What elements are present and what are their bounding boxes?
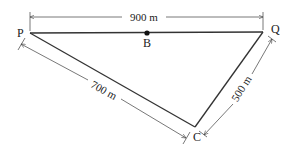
point-b-dot [144,30,149,35]
dim-qc-label: 500 m [229,73,254,103]
point-p-label: P [17,26,24,40]
dim-pc-arrow-c [121,99,186,138]
dim-pq-label: 900 m [130,11,158,23]
triangle-diagram: 900 m 700 m 500 m P Q B C [0,0,294,156]
side-pc [30,33,195,127]
point-c-label: C [193,130,201,144]
dim-pc-arrow-p [21,44,88,80]
dim-pc-tick-c [183,132,190,144]
point-b-label: B [143,36,151,50]
point-q-label: Q [271,22,280,36]
